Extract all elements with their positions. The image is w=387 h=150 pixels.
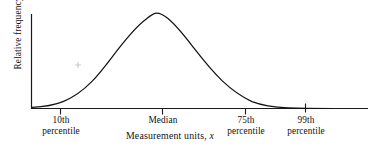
scan-artifact-mark <box>75 62 81 68</box>
tick-label-99th-percentile-line1: 99th <box>265 115 347 126</box>
x-axis-label-text: Measurement units, <box>126 130 210 141</box>
x-axis-label: Measurement units, x <box>0 130 340 141</box>
tick-label-median: Median <box>122 115 204 126</box>
x-axis-label-variable: x <box>209 130 214 141</box>
tick-label-median-line1: Median <box>122 115 204 126</box>
tick-label-10th-percentile-line1: 10th <box>20 115 102 126</box>
y-axis-label: Relative frequency <box>13 0 23 81</box>
bell-curve <box>32 13 332 108</box>
distribution-figure: Relative frequency 10th percentile Media… <box>0 0 387 150</box>
